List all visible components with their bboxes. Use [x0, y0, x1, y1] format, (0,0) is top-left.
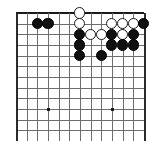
grid-line-vertical [37, 13, 38, 141]
hoshi-star-point [111, 108, 114, 111]
white-stone[interactable] [96, 29, 107, 40]
grid-line-vertical [69, 13, 70, 141]
grid-line-vertical [48, 13, 49, 141]
black-stone[interactable] [74, 50, 85, 61]
white-stone[interactable] [74, 7, 85, 18]
white-stone[interactable] [85, 29, 96, 40]
board-edge-left [16, 13, 18, 141]
board-edge-right [144, 13, 146, 141]
black-stone[interactable] [128, 29, 139, 40]
white-stone[interactable] [74, 18, 85, 29]
black-stone[interactable] [74, 39, 85, 50]
black-stone[interactable] [106, 39, 117, 50]
white-stone[interactable] [128, 18, 139, 29]
black-stone[interactable] [128, 39, 139, 50]
black-stone[interactable] [96, 50, 107, 61]
black-stone[interactable] [42, 18, 53, 29]
black-stone[interactable] [138, 18, 149, 29]
go-diagram-screen [0, 0, 158, 141]
white-stone[interactable] [106, 18, 117, 29]
white-stone[interactable] [117, 18, 128, 29]
black-stone[interactable] [106, 29, 117, 40]
grid-line-vertical [27, 13, 28, 141]
black-stone[interactable] [32, 18, 43, 29]
hoshi-star-point [47, 108, 50, 111]
grid-line-vertical [59, 13, 60, 141]
black-stone[interactable] [74, 29, 85, 40]
white-stone[interactable] [117, 29, 128, 40]
black-stone[interactable] [117, 39, 128, 50]
go-board[interactable] [0, 0, 158, 141]
